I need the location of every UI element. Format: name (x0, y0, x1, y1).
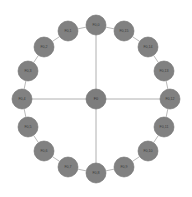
ring-node-circle[interactable] (160, 89, 180, 109)
ring-node[interactable]: F0,9 (114, 157, 134, 177)
ring-node[interactable]: F0,7 (58, 157, 78, 177)
ring-node[interactable]: F0,4 (12, 89, 32, 109)
ring-node[interactable]: F0,3 (18, 61, 38, 81)
ring-node[interactable]: F0,0 (86, 15, 106, 35)
ring-edge (154, 55, 159, 62)
ring-node[interactable]: F0,11 (154, 117, 174, 137)
ring-node[interactable]: F0,10 (138, 141, 158, 161)
ring-edge (52, 157, 59, 162)
ring-edge (106, 169, 114, 171)
ring-node[interactable]: F0,12 (160, 89, 180, 109)
ring-node-circle[interactable] (114, 21, 134, 41)
ring-node-circle[interactable] (58, 157, 78, 177)
graph-canvas: F0,0F0,15F0,14F0,13F0,12F0,11F0,10F0,9F0… (0, 0, 192, 197)
network-diagram-figure: F0,0F0,15F0,14F0,13F0,12F0,11F0,10F0,9F0… (0, 0, 192, 197)
hub-node-circle[interactable] (86, 89, 106, 109)
ring-edge (154, 135, 159, 142)
ring-node[interactable]: F0,1 (58, 21, 78, 41)
ring-node[interactable]: F0,8 (86, 163, 106, 183)
ring-node-circle[interactable] (138, 141, 158, 161)
ring-node[interactable]: F0,13 (154, 61, 174, 81)
ring-node-circle[interactable] (12, 89, 32, 109)
ring-node[interactable]: F0,2 (34, 37, 54, 57)
ring-edge (166, 81, 168, 89)
ring-edge (78, 169, 86, 171)
ring-node-circle[interactable] (34, 37, 54, 57)
ring-node[interactable]: F0,15 (114, 21, 134, 41)
ring-node[interactable]: F0,6 (34, 141, 54, 161)
ring-edge (166, 109, 168, 117)
ring-edge (34, 135, 39, 142)
ring-node[interactable]: F0,5 (18, 117, 38, 137)
ring-node[interactable]: F0,14 (138, 37, 158, 57)
ring-edge (132, 157, 139, 162)
ring-node-circle[interactable] (86, 163, 106, 183)
ring-node-circle[interactable] (154, 117, 174, 137)
ring-node-circle[interactable] (18, 117, 38, 137)
ring-node-circle[interactable] (154, 61, 174, 81)
ring-node-circle[interactable] (58, 21, 78, 41)
ring-node-circle[interactable] (34, 141, 54, 161)
ring-node-circle[interactable] (138, 37, 158, 57)
ring-node-circle[interactable] (18, 61, 38, 81)
ring-edge (106, 27, 114, 29)
hub-node[interactable]: F0 (86, 89, 106, 109)
ring-edge (24, 109, 26, 117)
ring-edge (24, 81, 26, 89)
ring-edge (78, 27, 86, 29)
ring-node-circle[interactable] (86, 15, 106, 35)
ring-edge (132, 37, 139, 42)
ring-edge (52, 37, 59, 42)
ring-edge (34, 55, 39, 62)
ring-node-circle[interactable] (114, 157, 134, 177)
